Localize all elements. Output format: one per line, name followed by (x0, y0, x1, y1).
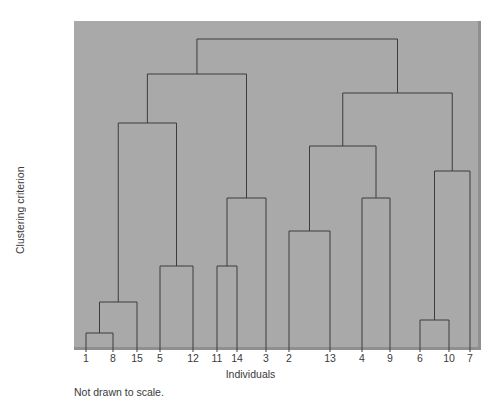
dendrogram-tree (0, 0, 501, 409)
dendrogram-figure: .463.296.104.042.037.017.008.006.004.002… (0, 0, 501, 409)
